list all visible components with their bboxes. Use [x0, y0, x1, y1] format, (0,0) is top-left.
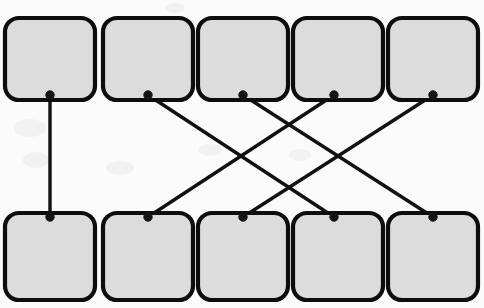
paper-smudge	[14, 119, 46, 137]
node-bottom-5[interactable]	[388, 213, 478, 300]
node-bottom-1[interactable]	[5, 213, 95, 300]
diagram-canvas	[0, 0, 484, 308]
anchor-top-2[interactable]	[144, 91, 152, 99]
node-top-3[interactable]	[198, 18, 288, 100]
node-bottom-4[interactable]	[293, 213, 383, 300]
paper-smudge	[165, 3, 185, 13]
anchor-top-1[interactable]	[46, 91, 54, 99]
paper-smudge	[198, 144, 222, 156]
top-row-nodes	[5, 18, 478, 100]
node-bottom-3[interactable]	[198, 213, 288, 300]
anchor-top-5[interactable]	[429, 91, 437, 99]
node-top-5[interactable]	[388, 18, 478, 100]
anchor-bottom-2[interactable]	[144, 213, 152, 221]
anchor-bottom-1[interactable]	[46, 213, 54, 221]
paper-smudge	[289, 149, 311, 161]
anchor-top-3[interactable]	[239, 91, 247, 99]
bipartite-graph-svg	[0, 0, 484, 308]
anchor-bottom-3[interactable]	[239, 213, 247, 221]
bottom-row-nodes	[5, 213, 478, 300]
node-top-4[interactable]	[293, 18, 383, 100]
edges-layer	[50, 95, 433, 217]
node-bottom-2[interactable]	[103, 213, 193, 300]
anchor-top-4[interactable]	[330, 91, 338, 99]
paper-smudge	[23, 152, 49, 168]
paper-smudge	[106, 161, 134, 175]
anchor-bottom-5[interactable]	[429, 213, 437, 221]
node-top-2[interactable]	[103, 18, 193, 100]
anchor-bottom-4[interactable]	[330, 213, 338, 221]
node-top-1[interactable]	[5, 18, 95, 100]
